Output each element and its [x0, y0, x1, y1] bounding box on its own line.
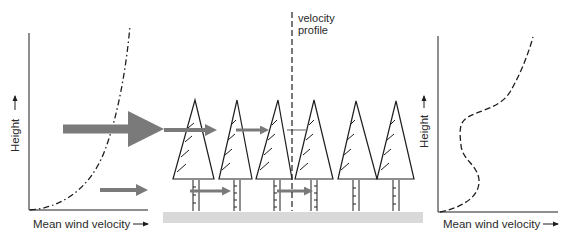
- velocity-profile-label-line1: velocity: [298, 12, 335, 24]
- tree-3: [256, 100, 292, 179]
- left-x-axis-label: Mean wind velocity: [33, 218, 130, 230]
- right-y-axis-label: Height: [418, 114, 430, 148]
- left-velocity-curve: [30, 26, 130, 210]
- left-chart: Height Mean wind velocity: [9, 26, 148, 230]
- right-x-axis-label: Mean wind velocity: [443, 218, 540, 230]
- tree-1: [173, 100, 214, 179]
- trunk-2: [234, 180, 240, 211]
- left-y-axis-label: Height: [9, 118, 21, 152]
- forest-scene: velocity profile: [163, 12, 423, 223]
- trunk-3: [274, 180, 280, 211]
- trunk-4: [311, 180, 317, 211]
- right-velocity-curve: [440, 37, 533, 212]
- right-chart: Height Mean wind velocity: [418, 36, 558, 230]
- tree-4: [295, 100, 333, 179]
- trunk-5: [353, 180, 359, 211]
- wind-velocity-diagram: Height Mean wind velocity: [0, 0, 570, 240]
- velocity-profile-label-line2: profile: [298, 24, 328, 36]
- trunk-1: [193, 180, 199, 211]
- tree-trunks: [193, 180, 399, 211]
- ground-strip: [163, 212, 423, 223]
- tree-2: [219, 100, 252, 179]
- tree-6: [377, 101, 414, 179]
- trunk-6: [393, 180, 399, 211]
